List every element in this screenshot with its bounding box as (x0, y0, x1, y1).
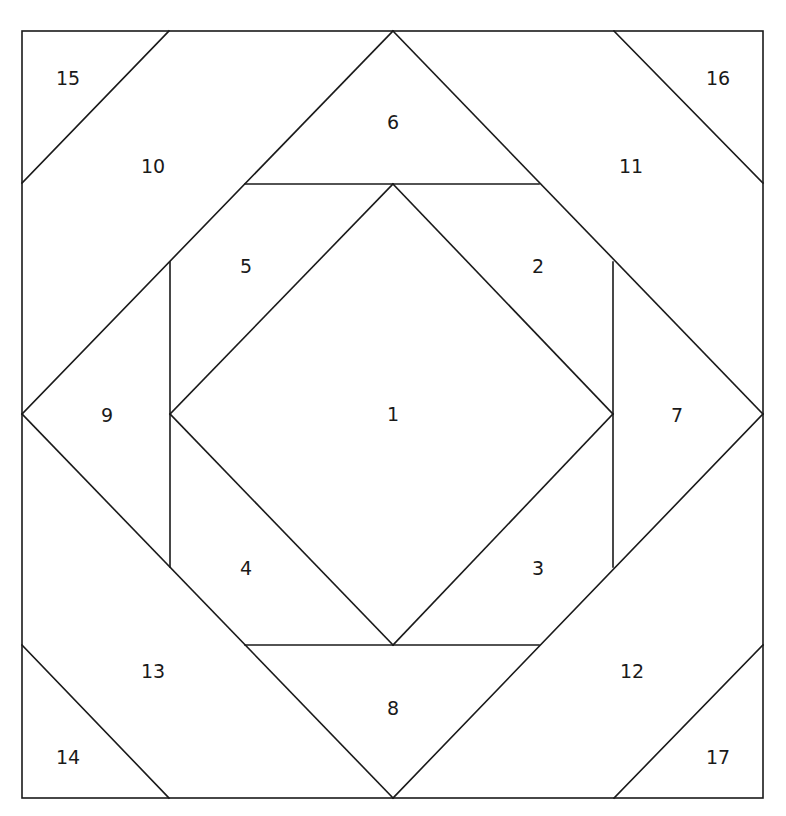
seam-line (22, 414, 393, 798)
piece-label-15: 15 (56, 67, 80, 89)
piece-label-4: 4 (240, 557, 252, 579)
piece-label-8: 8 (387, 697, 399, 719)
piece-label-6: 6 (387, 111, 399, 133)
seam-line (393, 414, 613, 645)
piece-label-13: 13 (141, 660, 165, 682)
piece-label-17: 17 (706, 746, 730, 768)
quilt-block-diagram: 1 2 3 4 5 6 7 8 9 10 11 12 13 14 15 16 1… (0, 0, 786, 816)
seam-line (393, 184, 613, 414)
seam-line (170, 184, 393, 414)
piece-label-2: 2 (532, 255, 544, 277)
piece-label-12: 12 (620, 660, 644, 682)
piece-number-labels: 1 2 3 4 5 6 7 8 9 10 11 12 13 14 15 16 1… (56, 67, 730, 768)
piece-label-9: 9 (101, 404, 113, 426)
piece-label-16: 16 (706, 67, 730, 89)
piece-label-5: 5 (240, 255, 252, 277)
piece-label-14: 14 (56, 746, 80, 768)
seam-line (170, 414, 393, 645)
piece-label-7: 7 (671, 404, 683, 426)
seam-line (393, 414, 763, 798)
piece-label-3: 3 (532, 557, 544, 579)
piece-label-1: 1 (387, 403, 399, 425)
piece-label-11: 11 (619, 155, 643, 177)
piece-label-10: 10 (141, 155, 165, 177)
